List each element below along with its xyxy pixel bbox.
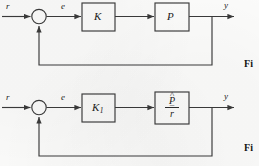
label-input-r: r: [6, 93, 10, 102]
bar-accent-icon: ¯: [170, 105, 175, 114]
block-diagram-upper: r e y K P: [0, 0, 259, 83]
label-input-r: r: [6, 2, 10, 11]
hat-accent-icon: ^: [170, 91, 174, 100]
label-output-y: y: [224, 1, 228, 10]
lower-figure-caption: Fi: [244, 142, 259, 153]
fraction-denominator-r-bar: ¯r: [163, 109, 181, 119]
block-diagram-lower: r e y K1 ^P ¯r: [0, 83, 259, 166]
label-error-e: e: [61, 93, 65, 102]
controller-block-label-K: K: [94, 11, 101, 22]
label-error-e: e: [61, 2, 65, 11]
controller-block-label-K1: K1: [92, 102, 103, 114]
block-diagram-upper-graphics: [0, 0, 259, 83]
plant-fraction: ^P ¯r: [163, 96, 181, 119]
block-diagram-lower-graphics: [0, 83, 259, 166]
label-output-y: y: [224, 92, 228, 101]
summing-junction: [32, 100, 46, 114]
summing-junction: [32, 9, 46, 23]
plant-block-label-P: P: [167, 11, 174, 22]
controller-label-subscript: 1: [100, 106, 104, 115]
upper-figure-caption: Fi: [244, 58, 259, 69]
controller-label-base: K: [92, 101, 99, 113]
figure-page: r e y K P Fi r e: [0, 0, 259, 166]
